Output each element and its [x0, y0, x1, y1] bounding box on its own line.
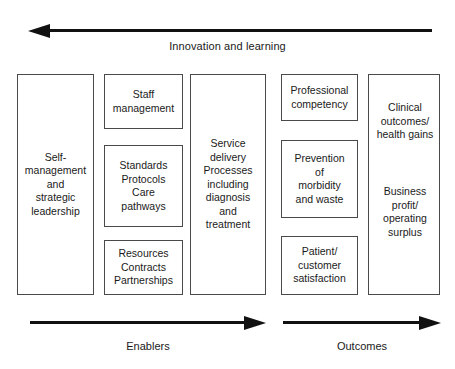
box-professional-competency: Professional competency: [281, 74, 358, 121]
box-standards-protocols: Standards Protocols Care pathways: [104, 145, 183, 227]
box-professional-competency-text: Professional competency: [287, 82, 353, 113]
box-service-delivery: Service delivery Processes including dia…: [190, 74, 266, 295]
box-final-outcomes: Clinical outcomes/ health gains Business…: [368, 74, 440, 295]
process-diagram: Innovation and learning Self- management…: [0, 0, 455, 369]
box-prevention-morbidity: Prevention of morbidity and waste: [281, 140, 358, 218]
arrow-shaft: [283, 321, 421, 324]
enablers-arrow: [30, 316, 266, 330]
box-resources-contracts: Resources Contracts Partnerships: [104, 240, 183, 295]
box-patient-satisfaction: Patient/ customer satisfaction: [281, 236, 358, 295]
box-standards-protocols-text: Standards Protocols Care pathways: [116, 157, 172, 215]
arrow-head-right-icon: [244, 316, 266, 330]
box-patient-satisfaction-text: Patient/ customer satisfaction: [289, 243, 350, 288]
box-clinical-outcomes-text: Clinical outcomes/ health gains: [369, 101, 441, 142]
box-self-management-text: Self- management and strategic leadershi…: [22, 151, 89, 219]
outcomes-arrow: [283, 316, 441, 330]
box-resources-contracts-text: Resources Contracts Partnerships: [110, 245, 177, 290]
arrow-head-right-icon: [419, 316, 441, 330]
innovation-learning-arrow: [28, 24, 432, 38]
box-staff-management-text: Staff management: [109, 86, 178, 117]
innovation-learning-label: Innovation and learning: [0, 40, 455, 52]
arrow-shaft: [46, 29, 432, 32]
enablers-label: Enablers: [30, 340, 266, 352]
box-self-management: Self- management and strategic leadershi…: [17, 74, 94, 295]
box-service-delivery-text: Service delivery Processes including dia…: [200, 137, 255, 232]
box-prevention-morbidity-text: Prevention of morbidity and waste: [290, 150, 348, 208]
box-staff-management: Staff management: [104, 74, 183, 129]
outcomes-label: Outcomes: [283, 340, 441, 352]
box-business-profit-text: Business profit/ operating surplus: [369, 185, 441, 239]
arrow-shaft: [30, 321, 246, 324]
column-final-outcomes: Clinical outcomes/ health gains Business…: [368, 74, 440, 295]
